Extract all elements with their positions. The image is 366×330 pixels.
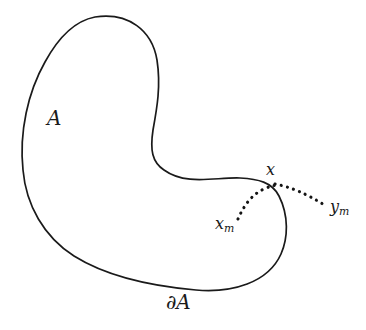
boundary-label-partial-A: ∂A: [166, 292, 191, 312]
point-label-xm-base: x: [215, 214, 224, 233]
dotted-arc-xm-to-x: [238, 185, 276, 219]
caption-strip: [0, 321, 366, 330]
figure-container: A ∂A x xm ym: [0, 0, 366, 330]
region-boundary-path: [22, 16, 286, 290]
point-label-ym-base: y: [330, 197, 339, 216]
partial-derivative-symbol: ∂: [166, 290, 176, 314]
point-label-ym: ym: [330, 199, 349, 218]
boundary-set-name: A: [176, 290, 190, 314]
point-label-xm-subscript: m: [224, 222, 234, 235]
point-label-x: x: [266, 162, 275, 178]
point-label-ym-subscript: m: [339, 205, 349, 218]
region-label-A: A: [47, 108, 61, 128]
point-label-xm: xm: [215, 216, 234, 235]
diagram-canvas: [0, 0, 366, 330]
